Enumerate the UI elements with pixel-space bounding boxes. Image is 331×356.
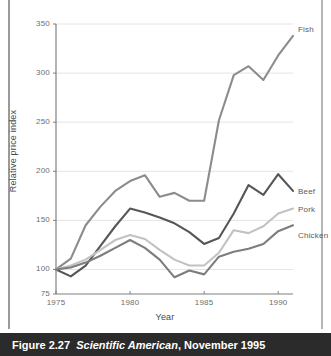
data-series-group <box>56 36 293 278</box>
x-axis-title: Year <box>125 312 205 322</box>
y-tick-label: 300 <box>26 68 50 77</box>
series-label-chicken: Chicken <box>298 231 328 240</box>
series-label-fish: Fish <box>298 25 314 34</box>
y-tick-label: 100 <box>26 264 50 273</box>
series-line-beef <box>56 174 293 276</box>
y-tick-label: 250 <box>26 117 50 126</box>
y-axis-title: Relative price index <box>8 91 18 211</box>
caption-figure-number: Figure 2.27 <box>12 339 70 351</box>
line-chart-svg <box>0 0 331 329</box>
y-tick-label: 150 <box>26 215 50 224</box>
x-tick-label: 1985 <box>189 298 219 307</box>
x-tick-label: 1975 <box>41 298 71 307</box>
series-label-beef: Beef <box>298 187 315 196</box>
gridlines-group <box>56 24 293 269</box>
y-tick-label: 350 <box>26 19 50 28</box>
chart-plot-area: 75100150200250300350 1975198019851990 Fi… <box>0 0 331 329</box>
figure-caption-text: Figure 2.27 Scientific American, Novembe… <box>12 339 265 351</box>
caption-source-title: Scientific American <box>76 339 178 351</box>
figure-container: 75100150200250300350 1975198019851990 Fi… <box>0 0 331 356</box>
x-tick-label: 1980 <box>115 298 145 307</box>
axes-group <box>56 24 293 294</box>
caption-date: , November 1995 <box>178 339 265 351</box>
x-tick-label: 1990 <box>263 298 293 307</box>
y-tick-label: 75 <box>26 289 50 298</box>
series-line-fish <box>56 36 293 270</box>
series-label-pork: Pork <box>298 205 315 214</box>
figure-caption-bar: Figure 2.27 Scientific American, Novembe… <box>0 333 331 356</box>
y-tick-label: 200 <box>26 166 50 175</box>
